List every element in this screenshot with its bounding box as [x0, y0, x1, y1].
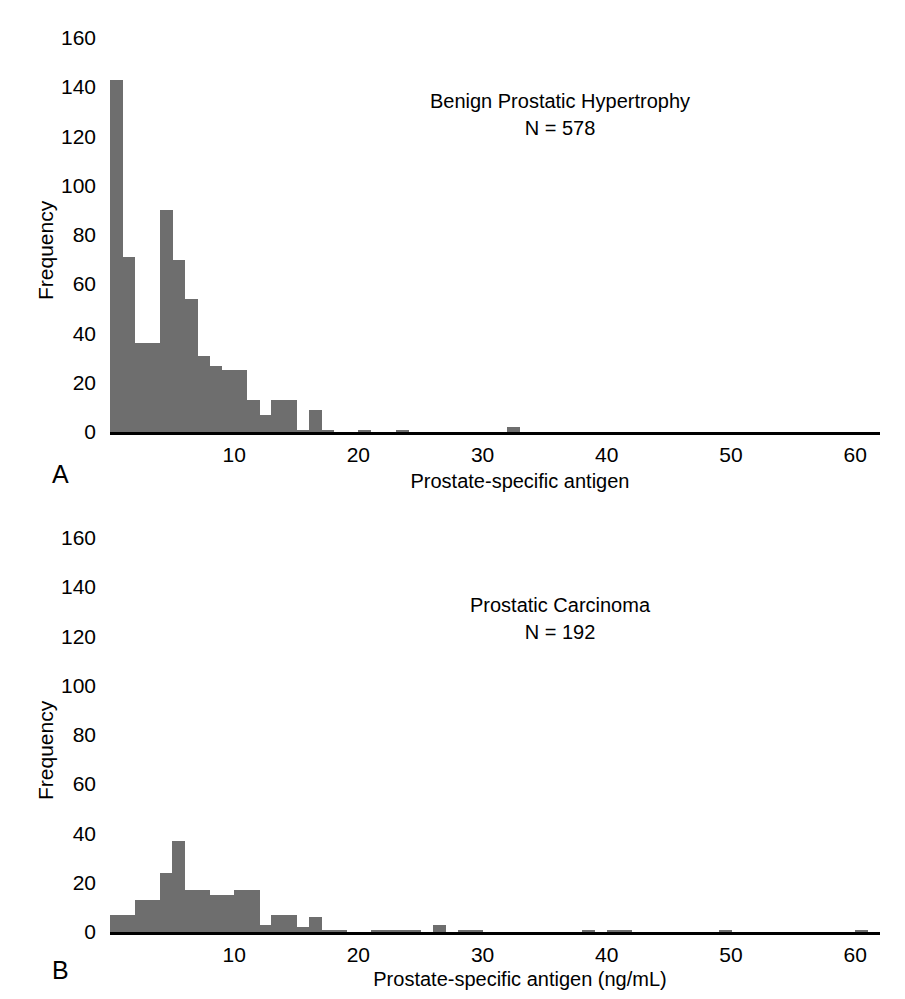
histogram-bar	[172, 260, 185, 432]
y-tick-label: 160	[34, 27, 96, 48]
x-tick-label: 50	[701, 444, 761, 465]
histogram-bar	[197, 356, 210, 432]
panel-b-x-axis-title: Prostate-specific antigen (ng/mL)	[240, 968, 800, 991]
y-tick-label: 80	[34, 724, 96, 745]
x-tick-label: 30	[453, 944, 513, 965]
y-tick-label: 0	[34, 921, 96, 942]
x-tick-label: 60	[825, 944, 885, 965]
panel-a-letter: A	[52, 462, 69, 487]
y-tick-label: 20	[34, 872, 96, 893]
y-tick-label: 160	[34, 527, 96, 548]
panel-b-letter: B	[52, 958, 69, 983]
histogram-bar	[160, 210, 173, 432]
y-tick-label: 0	[34, 421, 96, 442]
x-tick-label: 20	[328, 444, 388, 465]
panel-b: Prostatic Carcinoma N = 192 Frequency 02…	[0, 505, 905, 999]
histogram-bar	[135, 900, 148, 932]
histogram-bar	[259, 925, 272, 932]
histogram-bar	[185, 890, 198, 932]
histogram-bar	[309, 917, 322, 932]
histogram-bar	[247, 400, 260, 432]
panel-b-x-axis-line	[110, 932, 880, 935]
histogram-bar	[222, 895, 235, 932]
histogram-bar	[271, 400, 284, 432]
histogram-bar	[160, 873, 173, 932]
histogram-bar	[122, 257, 135, 432]
y-tick-label: 100	[34, 675, 96, 696]
panel-a-x-axis-line	[110, 432, 880, 435]
y-tick-label: 140	[34, 576, 96, 597]
x-tick-label: 50	[701, 944, 761, 965]
histogram-bar	[197, 890, 210, 932]
y-tick-label: 20	[34, 372, 96, 393]
histogram-bar	[222, 370, 235, 432]
panel-a-x-axis-title: Prostate-specific antigen	[240, 470, 800, 493]
histogram-bar	[271, 915, 284, 932]
histogram-bar	[234, 370, 247, 432]
histogram-bar	[247, 890, 260, 932]
histogram-bar	[209, 895, 222, 932]
y-tick-label: 60	[34, 773, 96, 794]
histogram-bar	[185, 299, 198, 432]
y-tick-label: 100	[34, 175, 96, 196]
y-tick-label: 40	[34, 823, 96, 844]
histogram-bar	[433, 925, 446, 932]
panel-a-plot-area	[110, 38, 880, 432]
x-tick-label: 10	[204, 444, 264, 465]
histogram-bar	[284, 915, 297, 932]
histogram-bar	[110, 80, 123, 432]
panel-a: Benign Prostatic Hypertrophy N = 578 Fre…	[0, 0, 905, 505]
y-tick-label: 120	[34, 626, 96, 647]
histogram-bar	[209, 366, 222, 432]
histogram-bar	[147, 900, 160, 932]
panel-b-plot-area	[110, 538, 880, 932]
x-tick-label: 10	[204, 944, 264, 965]
x-tick-label: 20	[328, 944, 388, 965]
y-tick-label: 60	[34, 273, 96, 294]
histogram-bar	[147, 343, 160, 432]
figure-psa-histograms: Benign Prostatic Hypertrophy N = 578 Fre…	[0, 0, 905, 999]
histogram-bar	[110, 915, 123, 932]
y-tick-label: 140	[34, 76, 96, 97]
x-tick-label: 60	[825, 444, 885, 465]
histogram-bar	[309, 410, 322, 432]
x-tick-label: 40	[577, 944, 637, 965]
y-tick-label: 80	[34, 224, 96, 245]
histogram-bar	[259, 415, 272, 432]
histogram-bar	[234, 890, 247, 932]
panel-b-bars	[110, 538, 880, 932]
x-tick-label: 30	[453, 444, 513, 465]
histogram-bar	[122, 915, 135, 932]
y-tick-label: 120	[34, 126, 96, 147]
panel-a-bars	[110, 38, 880, 432]
histogram-bar	[135, 343, 148, 432]
histogram-bar	[284, 400, 297, 432]
x-tick-label: 40	[577, 444, 637, 465]
histogram-bar	[172, 841, 185, 932]
y-tick-label: 40	[34, 323, 96, 344]
